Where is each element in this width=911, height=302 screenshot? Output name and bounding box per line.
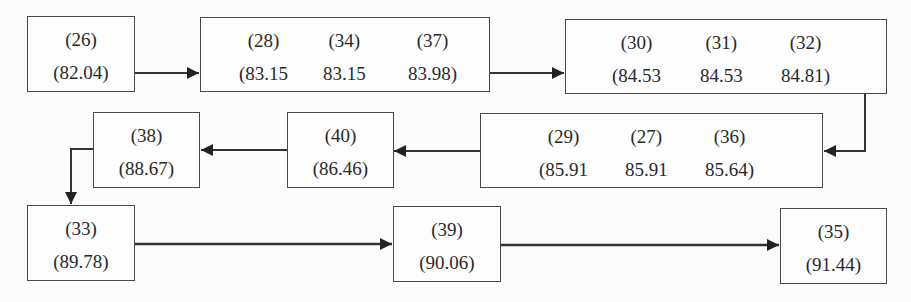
node-label: (27) xyxy=(631,127,663,147)
node-label: (34) xyxy=(329,31,361,51)
node-value: (89.78) xyxy=(53,252,108,272)
node-value: (86.46) xyxy=(313,159,368,179)
node-40: (40) (86.46) xyxy=(287,112,394,188)
node-label: (37) xyxy=(417,31,449,51)
arrow-f-g xyxy=(71,149,93,204)
node-value: 83.15 xyxy=(323,64,366,84)
node-value: 85.91 xyxy=(625,160,668,180)
node-value: 84.53 xyxy=(700,66,743,86)
node-35: (35) (91.44) xyxy=(780,208,887,284)
node-value: (88.67) xyxy=(119,159,174,179)
node-label: (33) xyxy=(65,219,97,239)
node-label: (36) xyxy=(714,127,746,147)
node-value: (90.06) xyxy=(419,253,474,273)
node-value: 83.98) xyxy=(408,64,457,84)
node-label: (39) xyxy=(431,220,463,240)
node-label: (35) xyxy=(818,222,850,242)
node-label: (28) xyxy=(248,31,280,51)
node-label: (29) xyxy=(548,127,580,147)
node-value: (85.91 xyxy=(539,160,588,180)
arrow-c-d xyxy=(824,94,865,151)
node-label: (26) xyxy=(65,30,97,50)
node-label: (38) xyxy=(131,126,163,146)
node-value: (82.04) xyxy=(53,63,108,83)
node-value: 85.64) xyxy=(705,160,754,180)
node-26: (26) (82.04) xyxy=(27,16,135,92)
node-33: (33) (89.78) xyxy=(27,205,135,281)
node-value: (83.15 xyxy=(239,64,288,84)
node-value: 84.81) xyxy=(781,66,830,86)
node-38: (38) (88.67) xyxy=(93,112,200,188)
node-label: (30) xyxy=(621,33,653,53)
node-value: (84.53 xyxy=(612,66,661,86)
node-28-34-37: (28) (83.15 (34) 83.15 (37) 83.98) xyxy=(200,17,490,92)
node-30-31-32: (30) (84.53 (31) 84.53 (32) 84.81) xyxy=(565,19,887,94)
node-label: (40) xyxy=(325,126,357,146)
node-label: (32) xyxy=(790,33,822,53)
node-value: (91.44) xyxy=(806,255,861,275)
node-label: (31) xyxy=(706,33,738,53)
node-39: (39) (90.06) xyxy=(393,206,501,282)
node-29-27-36: (29) (85.91 (27) 85.91 (36) 85.64) xyxy=(480,113,823,188)
